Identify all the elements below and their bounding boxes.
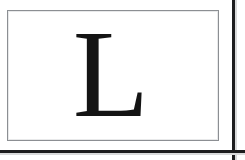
letter-glyph: L bbox=[73, 12, 149, 137]
bottom-edge-bleed bbox=[0, 153, 245, 155]
page-canvas: L bbox=[0, 0, 245, 160]
glyph-container: L bbox=[7, 10, 219, 141]
right-edge-bleed bbox=[235, 0, 237, 160]
right-edge-rule bbox=[232, 0, 235, 160]
bottom-edge-rule bbox=[0, 150, 245, 153]
